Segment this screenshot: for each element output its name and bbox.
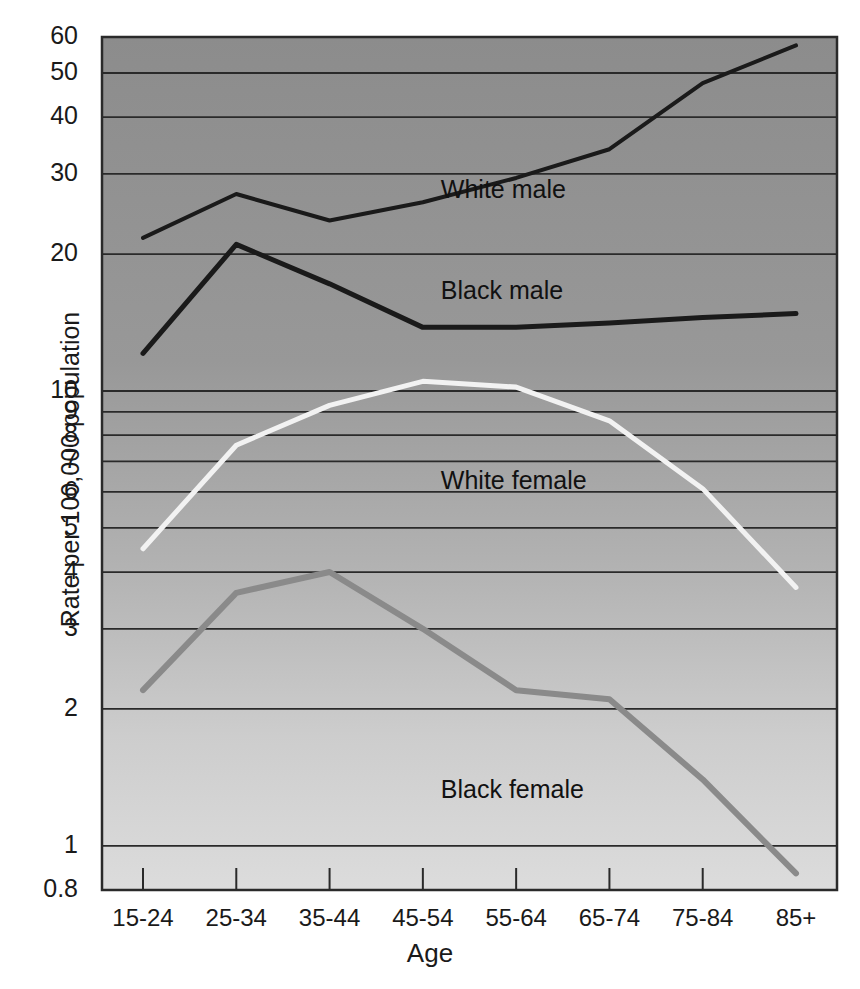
y-tick-label: 0.8 (43, 876, 78, 901)
y-axis-tick-labels: 0.8123456789102030405060 (0, 0, 92, 989)
series-label-white-male: White male (441, 175, 566, 204)
plot-area (0, 0, 860, 989)
x-tick-label: 15-24 (112, 904, 173, 932)
chart-figure: Rate per 100,000 population 0.8123456789… (0, 0, 860, 989)
y-tick-label: 3 (64, 615, 78, 640)
y-tick-label: 5 (64, 514, 78, 539)
x-tick-label: 75-84 (672, 904, 733, 932)
y-tick-label: 4 (64, 558, 78, 583)
series-label-white-female: White female (441, 466, 587, 495)
y-tick-label: 8 (64, 421, 78, 446)
y-tick-label: 7 (64, 447, 78, 472)
x-tick-label: 45-54 (392, 904, 453, 932)
y-tick-label: 20 (50, 240, 78, 265)
y-tick-label: 2 (64, 695, 78, 720)
series-label-black-female: Black female (441, 775, 584, 804)
y-tick-label: 60 (50, 23, 78, 48)
x-tick-label: 65-74 (579, 904, 640, 932)
x-tick-label: 55-64 (485, 904, 546, 932)
x-tick-label: 35-44 (299, 904, 360, 932)
x-tick-label: 25-34 (206, 904, 267, 932)
y-tick-label: 40 (50, 103, 78, 128)
y-tick-label: 6 (64, 478, 78, 503)
y-tick-label: 50 (50, 59, 78, 84)
y-tick-label: 1 (64, 832, 78, 857)
y-tick-label: 10 (50, 377, 78, 402)
plot-background (102, 37, 837, 890)
x-tick-label: 85+ (776, 904, 817, 932)
y-tick-label: 30 (50, 160, 78, 185)
x-axis-label: Age (0, 938, 860, 969)
series-label-black-male: Black male (441, 276, 563, 305)
